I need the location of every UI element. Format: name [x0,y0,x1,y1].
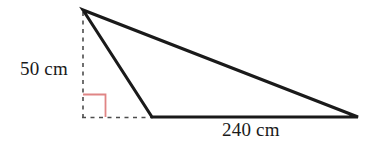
triangle-diagram: 50 cm 240 cm [0,0,373,151]
figure-canvas: 50 cm 240 cm [0,0,373,151]
height-label: 50 cm [20,58,68,79]
base-label: 240 cm [222,119,280,140]
